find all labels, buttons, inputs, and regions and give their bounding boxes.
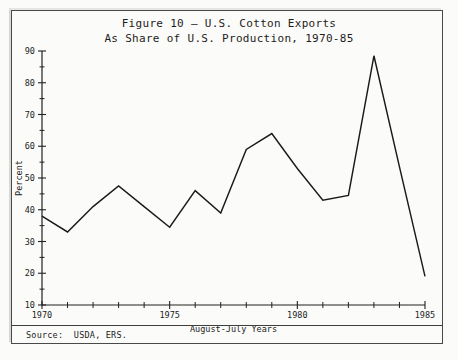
- y-axis-tick-label: 10: [25, 300, 35, 310]
- y-axis-tick-label: 90: [25, 46, 35, 56]
- y-axis-tick-label: 20: [25, 268, 35, 278]
- y-axis-title: Percent: [14, 160, 24, 196]
- y-axis-tick-label: 50: [25, 173, 35, 183]
- x-axis-tick-label: 1975: [159, 310, 179, 320]
- y-axis-tick-label: 30: [25, 237, 35, 247]
- y-axis-tick-label: 60: [25, 141, 35, 151]
- x-axis-tick-label: 1985: [415, 310, 435, 320]
- figure-page: Figure 10 — U.S. Cotton Exports As Share…: [0, 0, 458, 360]
- y-axis-tick-label: 70: [25, 110, 35, 120]
- y-axis-tick-label: 40: [25, 205, 35, 215]
- line-chart: 1020304050607080901970197519801985August…: [0, 0, 458, 360]
- y-axis-tick-label: 80: [25, 78, 35, 88]
- data-series-line: [42, 56, 425, 277]
- source-note: Source: USDA, ERS.: [26, 330, 127, 340]
- x-axis-tick-label: 1980: [287, 310, 307, 320]
- source-divider: [11, 325, 443, 326]
- x-axis-tick-label: 1970: [32, 310, 52, 320]
